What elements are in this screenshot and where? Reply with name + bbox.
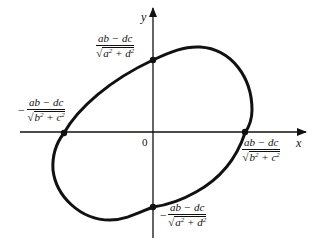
- numerator: ab − dc: [242, 137, 280, 150]
- label-y-negative: ab − dc √a2 + d2: [168, 202, 206, 228]
- origin-label: 0: [142, 136, 148, 148]
- x-axis-label: x: [296, 136, 301, 151]
- denominator: √b2 + c2: [242, 150, 279, 163]
- y-axis-label: y: [141, 10, 146, 25]
- label-x-positive: ab − dc √b2 + c2: [242, 137, 280, 163]
- denominator: √a2 + d2: [168, 215, 206, 228]
- label-y-negative-sign: −: [160, 208, 167, 223]
- intercept-point-x-positive: [242, 129, 248, 135]
- intercept-point-x-negative: [61, 130, 67, 136]
- intercept-point-y-positive: [150, 57, 156, 63]
- label-x-negative: ab − dc √b2 + c2: [27, 97, 65, 123]
- label-x-negative-sign: −: [18, 103, 25, 118]
- numerator: ab − dc: [96, 33, 134, 46]
- denominator: √a2 + d2: [96, 46, 134, 59]
- numerator: ab − dc: [168, 202, 206, 215]
- numerator: ab − dc: [27, 97, 65, 110]
- label-y-positive: ab − dc √a2 + d2: [96, 33, 134, 59]
- intercept-point-y-negative: [150, 204, 156, 210]
- denominator: √b2 + c2: [27, 110, 64, 123]
